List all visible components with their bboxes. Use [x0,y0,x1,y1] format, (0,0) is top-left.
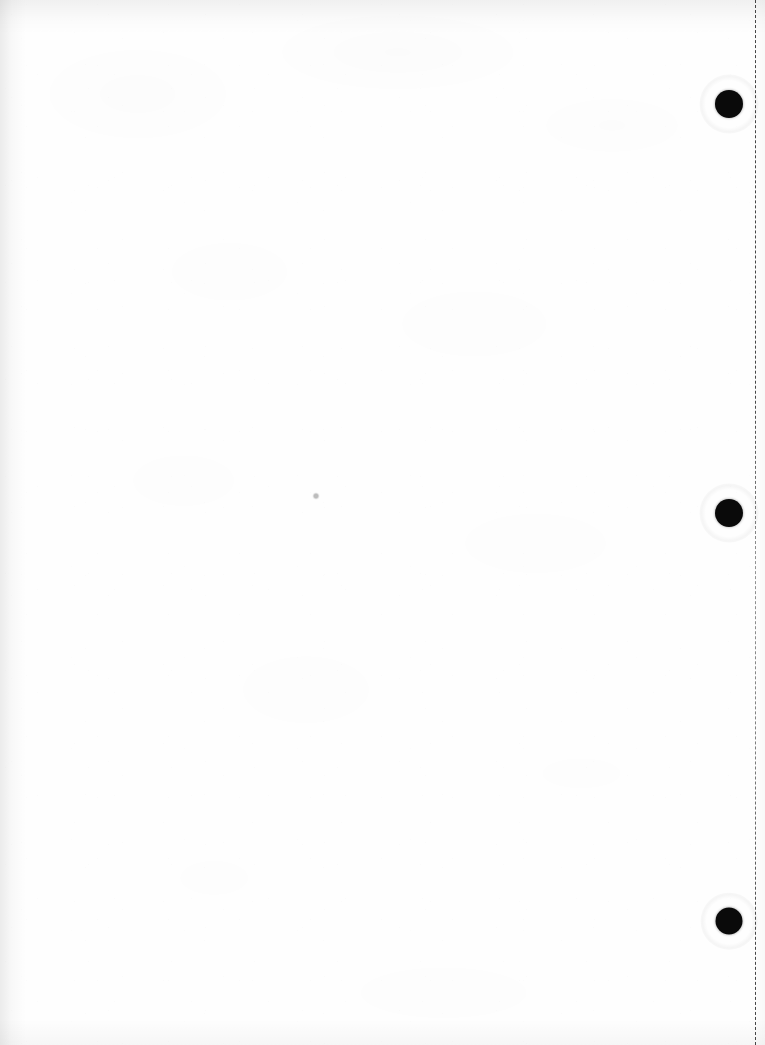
scanned-page [0,0,765,1045]
punch-hole-bottom [716,908,743,935]
punch-hole-middle [715,499,743,527]
paper-surface [0,0,765,1045]
punch-hole-top [715,90,743,118]
